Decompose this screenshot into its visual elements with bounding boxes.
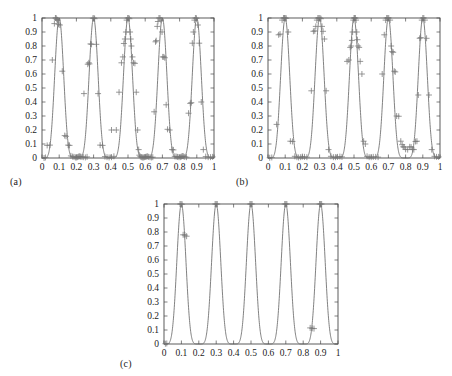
y-tick-label: 1 xyxy=(32,13,37,23)
plot-area-a: 00.10.20.30.40.50.60.70.80.9100.10.20.30… xyxy=(6,6,226,192)
x-tick-label: 0 xyxy=(162,348,167,358)
y-tick-label: 0.2 xyxy=(25,125,37,135)
x-tick-label: 0.2 xyxy=(193,348,205,358)
plot-area-b: 00.10.20.30.40.50.60.70.80.9100.10.20.30… xyxy=(232,6,452,192)
y-tick-label: 0.9 xyxy=(251,27,263,37)
x-tick-label: 0.9 xyxy=(417,162,429,172)
x-tick-label: 0.4 xyxy=(105,162,117,172)
x-tick-label: 0 xyxy=(266,162,271,172)
x-tick-label: 0.4 xyxy=(331,162,343,172)
x-tick-label: 0.5 xyxy=(122,162,134,172)
y-tick-label: 0.7 xyxy=(147,241,159,251)
x-tick-label: 0.1 xyxy=(175,348,187,358)
y-tick-label: 0.1 xyxy=(251,139,263,149)
y-tick-label: 0.5 xyxy=(147,269,159,279)
panel-label-a: (a) xyxy=(10,176,22,187)
y-tick-label: 0.2 xyxy=(147,311,159,321)
x-tick-label: 1 xyxy=(212,162,217,172)
x-tick-label: 0.9 xyxy=(315,348,327,358)
x-tick-label: 0.8 xyxy=(174,162,186,172)
x-tick-label: 0.7 xyxy=(280,348,292,358)
y-tick-label: 0.6 xyxy=(147,255,159,265)
x-tick-label: 0.1 xyxy=(53,162,65,172)
y-tick-label: 0.3 xyxy=(25,111,37,121)
figure-three-panel-plots: 00.10.20.30.40.50.60.70.80.9100.10.20.30… xyxy=(0,0,452,376)
y-tick-label: 0.8 xyxy=(147,227,159,237)
data-curve xyxy=(164,204,338,344)
y-tick-label: 0.4 xyxy=(147,283,159,293)
y-tick-label: 0.9 xyxy=(147,213,159,223)
y-tick-label: 0.6 xyxy=(25,69,37,79)
y-tick-label: 0 xyxy=(258,153,263,163)
x-tick-label: 0.6 xyxy=(365,162,377,172)
x-tick-label: 0.4 xyxy=(228,348,240,358)
y-tick-label: 0.7 xyxy=(251,55,263,65)
x-tick-label: 0.5 xyxy=(348,162,360,172)
scatter-marker-group xyxy=(267,15,442,161)
y-tick-label: 0 xyxy=(32,153,37,163)
panel-label-b: (b) xyxy=(236,176,248,187)
x-tick-label: 0.3 xyxy=(210,348,222,358)
y-tick-label: 0.5 xyxy=(251,83,263,93)
y-tick-label: 0.8 xyxy=(25,41,37,51)
y-tick-label: 0.4 xyxy=(25,97,37,107)
x-tick-label: 0.1 xyxy=(279,162,291,172)
y-tick-label: 1 xyxy=(258,13,263,23)
plot-panel-c: 00.10.20.30.40.50.60.70.80.9100.10.20.30… xyxy=(116,192,352,374)
x-tick-label: 0.6 xyxy=(139,162,151,172)
y-tick-label: 0.9 xyxy=(25,27,37,37)
plot-panel-a: 00.10.20.30.40.50.60.70.80.9100.10.20.30… xyxy=(6,6,226,192)
x-tick-label: 1 xyxy=(438,162,443,172)
y-tick-label: 0.4 xyxy=(251,97,263,107)
x-tick-label: 0.7 xyxy=(382,162,394,172)
x-tick-label: 0.3 xyxy=(88,162,100,172)
y-tick-label: 0 xyxy=(154,339,159,349)
x-tick-label: 1 xyxy=(336,348,341,358)
plot-area-c: 00.10.20.30.40.50.60.70.80.9100.10.20.30… xyxy=(116,192,352,374)
y-tick-label: 0.1 xyxy=(25,139,37,149)
x-tick-label: 0.8 xyxy=(400,162,412,172)
x-tick-label: 0.8 xyxy=(297,348,309,358)
x-tick-label: 0.7 xyxy=(156,162,168,172)
y-tick-label: 0.1 xyxy=(147,325,159,335)
panel-label-c: (c) xyxy=(120,358,132,369)
x-tick-label: 0.2 xyxy=(70,162,82,172)
plot-panel-b: 00.10.20.30.40.50.60.70.80.9100.10.20.30… xyxy=(232,6,452,192)
y-tick-label: 0.7 xyxy=(25,55,37,65)
y-tick-label: 0.2 xyxy=(251,125,263,135)
data-curve xyxy=(268,18,440,158)
y-tick-label: 0.6 xyxy=(251,69,263,79)
x-tick-label: 0.9 xyxy=(191,162,203,172)
y-tick-label: 1 xyxy=(154,199,159,209)
y-tick-label: 0.5 xyxy=(25,83,37,93)
x-tick-label: 0.6 xyxy=(262,348,274,358)
x-tick-label: 0 xyxy=(40,162,45,172)
x-tick-label: 0.3 xyxy=(314,162,326,172)
x-tick-label: 0.2 xyxy=(296,162,308,172)
y-tick-label: 0.3 xyxy=(251,111,263,121)
y-tick-label: 0.8 xyxy=(251,41,263,51)
y-tick-label: 0.3 xyxy=(147,297,159,307)
x-tick-label: 0.5 xyxy=(245,348,257,358)
